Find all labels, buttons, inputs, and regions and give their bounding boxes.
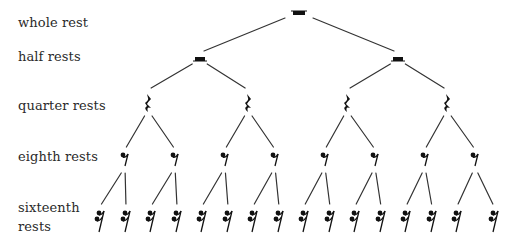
sixteenth-rest-icon xyxy=(427,211,436,232)
branch-half-to-quarter xyxy=(151,64,192,88)
branch-whole-to-half xyxy=(204,18,285,51)
branch-whole-to-half xyxy=(313,18,394,51)
branch-half-to-quarter xyxy=(350,64,390,88)
branch-quarter-to-eighth xyxy=(326,116,343,147)
eighth-rest-icon xyxy=(321,153,328,166)
quarter-rest-icon xyxy=(145,94,151,112)
branch-half-to-quarter xyxy=(405,64,444,88)
branch-eighth-to-sixteenth xyxy=(102,173,122,204)
branch-quarter-to-eighth xyxy=(126,116,144,147)
branch-quarter-to-eighth xyxy=(226,116,244,147)
sixteenth-rest-icon xyxy=(299,211,308,232)
branch-eighth-to-sixteenth xyxy=(458,173,472,204)
branch-eighth-to-sixteenth xyxy=(203,173,221,204)
branch-quarter-to-eighth xyxy=(152,116,173,147)
label-sixteenth-rests-line1: sixteenth xyxy=(18,199,80,216)
branch-quarter-to-eighth xyxy=(351,116,373,147)
sixteenth-rest-icon xyxy=(248,211,257,232)
branch-half-to-quarter xyxy=(207,64,245,88)
branch-quarter-to-eighth xyxy=(451,116,473,147)
sixteenth-rest-icon xyxy=(274,211,283,232)
branch-eighth-to-sixteenth xyxy=(225,173,227,204)
branch-eighth-to-sixteenth xyxy=(254,173,271,204)
half-rest-icon xyxy=(193,57,207,61)
branch-eighth-to-sixteenth xyxy=(356,173,372,204)
sixteenth-rest-icon xyxy=(452,211,461,232)
quarter-rest-icon xyxy=(444,94,450,112)
eighth-rest-icon xyxy=(471,153,478,166)
eighth-rest-icon xyxy=(121,153,128,166)
branch-eighth-to-sixteenth xyxy=(305,173,322,204)
branch-quarter-to-eighth xyxy=(252,116,273,147)
label-sixteenth-rests-line2: rests xyxy=(18,218,51,235)
sixteenth-rest-icon xyxy=(121,211,130,232)
sixteenth-rest-icon xyxy=(489,211,498,232)
whole-rest-icon xyxy=(291,11,307,15)
branch-eighth-to-sixteenth xyxy=(407,173,422,204)
sixteenth-rest-icon xyxy=(223,211,232,232)
tree-branches xyxy=(102,18,493,204)
label-eighth-rests: eighth rests xyxy=(18,148,98,165)
label-quarter-rests: quarter rests xyxy=(18,97,106,114)
branch-eighth-to-sixteenth xyxy=(152,173,171,204)
sixteenth-rest-icon xyxy=(172,211,181,232)
eighth-rest-icon xyxy=(271,153,278,166)
sixteenth-rest-icon xyxy=(401,211,410,232)
sixteenth-rest-icon xyxy=(325,211,334,232)
branch-eighth-to-sixteenth xyxy=(175,173,177,204)
label-half-rests: half rests xyxy=(18,48,81,65)
quarter-rest-icon xyxy=(344,94,350,112)
label-whole-rest: whole rest xyxy=(18,14,88,31)
branch-quarter-to-eighth xyxy=(426,116,443,147)
sixteenth-rest-icon xyxy=(146,211,155,232)
sixteenth-rest-icon xyxy=(350,211,359,232)
eighth-rest-icon xyxy=(171,153,178,166)
sixteenth-rest-icon xyxy=(376,211,385,232)
branch-eighth-to-sixteenth xyxy=(426,173,432,204)
sixteenth-rest-icon xyxy=(95,211,104,232)
sixteenth-rest-icon xyxy=(197,211,206,232)
branch-eighth-to-sixteenth xyxy=(125,173,126,204)
eighth-rest-icon xyxy=(421,153,428,166)
branch-eighth-to-sixteenth xyxy=(276,173,279,204)
branch-eighth-to-sixteenth xyxy=(376,173,381,204)
branch-eighth-to-sixteenth xyxy=(478,173,493,204)
branch-eighth-to-sixteenth xyxy=(326,173,330,204)
quarter-rest-icon xyxy=(245,94,251,112)
half-rest-icon xyxy=(391,57,405,61)
eighth-rest-icon xyxy=(221,153,228,166)
eighth-rest-icon xyxy=(371,153,378,166)
